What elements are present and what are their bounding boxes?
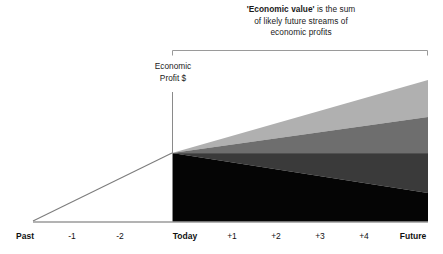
past-trend-line (33, 153, 172, 221)
y-axis-label-line-1: Economic (138, 61, 208, 73)
y-axis-label-line-2: Profit $ (138, 73, 208, 85)
callout-emphasis: 'Economic value' (247, 4, 315, 14)
callout-line-3: economic profits (186, 27, 416, 39)
callout-text: 'Economic value' is the sum of likely fu… (186, 4, 416, 39)
value-span-bracket (173, 51, 428, 56)
y-axis-label: Economic Profit $ (138, 61, 208, 84)
x-axis-tick-2: -2 (90, 231, 150, 241)
economic-value-chart-figure: 'Economic value' is the sum of likely fu… (0, 0, 443, 254)
callout-line-2: of likely future streams of (186, 16, 416, 28)
callout-line-1-rest: is the sum (315, 4, 356, 14)
profit-stream-bands (172, 80, 428, 222)
x-axis-tick-future: Future (383, 231, 443, 241)
callout-line-1: 'Economic value' is the sum (186, 4, 416, 16)
